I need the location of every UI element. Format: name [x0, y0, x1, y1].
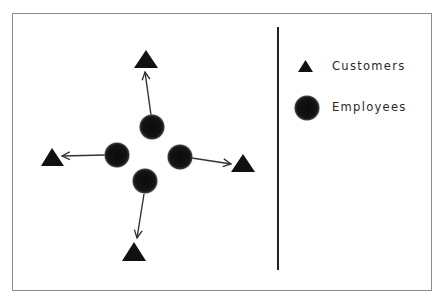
arrows [62, 72, 231, 238]
customer-left-triangle-icon [41, 148, 64, 166]
employee-right-circle-icon [167, 144, 193, 170]
arrow-top [145, 72, 151, 115]
legend-label-employees: Employees [332, 102, 407, 114]
employee-left-circle-icon [104, 142, 130, 168]
employee-bottom-circle-icon [132, 168, 158, 194]
legend-label-customers: Customers [332, 61, 406, 73]
employee-top-circle-icon [139, 114, 165, 140]
arrow-right [192, 158, 231, 164]
legend-circle-icon [294, 95, 320, 121]
arrow-left [62, 155, 105, 156]
customer-bottom-triangle-icon [122, 242, 146, 261]
legend-triangle-icon [298, 60, 313, 72]
employees [104, 114, 193, 194]
diagram-canvas [0, 0, 445, 304]
arrow-bottom [137, 194, 144, 238]
customer-right-triangle-icon [231, 154, 255, 172]
customer-top-triangle-icon [134, 50, 158, 68]
